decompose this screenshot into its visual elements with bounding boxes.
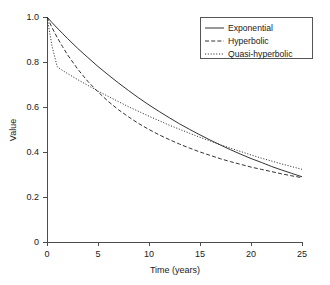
x-tick-label-10: 10 [144,249,154,259]
x-tick-label-25: 25 [297,249,307,259]
legend: Exponential Hyperbolic Quasi-hyperbolic [201,18,313,60]
y-tick-label-0: 0 [34,237,39,247]
legend-label-quasi-hyperbolic: Quasi-hyperbolic [228,49,293,59]
discount-function-chart: 0 0.2 0.4 0.6 0.8 1.0 0 5 10 15 20 25 Ti… [0,0,330,285]
x-tick-label-0: 0 [44,249,49,259]
y-tick-label-0.6: 0.6 [26,102,39,112]
y-tick-label-1.0: 1.0 [26,12,39,22]
y-axis-ticks: 0 0.2 0.4 0.6 0.8 1.0 [26,12,47,247]
y-tick-label-0.2: 0.2 [26,192,39,202]
legend-label-hyperbolic: Hyperbolic [228,36,269,46]
y-tick-label-0.4: 0.4 [26,147,39,157]
x-tick-label-15: 15 [195,249,205,259]
y-tick-label-0.8: 0.8 [26,57,39,67]
x-axis-title: Time (years) [150,265,200,275]
legend-label-exponential: Exponential [228,23,273,33]
x-tick-label-20: 20 [246,249,256,259]
x-tick-label-5: 5 [95,249,100,259]
chart-container: 0 0.2 0.4 0.6 0.8 1.0 0 5 10 15 20 25 Ti… [0,0,330,285]
y-axis-title: Value [8,119,18,141]
x-axis-ticks: 0 5 10 15 20 25 [44,242,307,259]
